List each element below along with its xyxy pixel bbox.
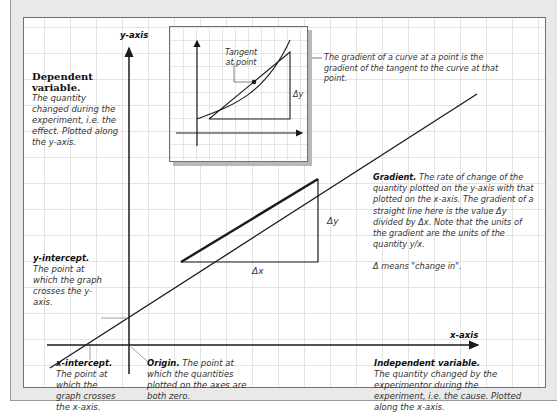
gradient-body: The rate of change of the quantity plott…	[373, 172, 533, 249]
independent-variable-body: The quantity changed by the experimentor…	[374, 369, 524, 413]
origin-note: Origin. The point at which the quantitie…	[147, 358, 247, 402]
tangent-point	[252, 80, 257, 85]
delta-y-label: Δy	[327, 216, 338, 226]
x-intercept-note: x-intercept. The point at which the grap…	[56, 358, 122, 413]
dependent-variable-body: The quantity changed during the experime…	[32, 93, 124, 148]
delta-x-label: Δx	[252, 266, 263, 276]
y-intercept-body: The point at which the graph crosses the…	[33, 264, 102, 307]
gradient-note: Gradient. The rate of change of the quan…	[373, 172, 535, 273]
delta-meaning-note: Δ means "change in".	[373, 261, 535, 272]
origin-title: Origin.	[147, 358, 180, 368]
inset-delta-y: Δy	[293, 90, 303, 99]
x-intercept-body: The point at which the graph crosses the…	[56, 369, 115, 412]
x-axis-label: x-axis	[450, 330, 478, 340]
tangent-label: Tangent at point	[219, 48, 263, 68]
inset-caption: The gradient of a curve at a point is th…	[324, 53, 514, 85]
y-intercept-title: y-intercept.	[33, 253, 89, 263]
x-intercept-title: x-intercept.	[56, 358, 112, 368]
tangent-label-line2: at point	[219, 58, 263, 68]
dependent-variable-note: Dependent variable. The quantity changed…	[32, 71, 124, 148]
gradient-title: Gradient.	[373, 172, 416, 182]
tangent-label-line1: Tangent	[219, 48, 263, 58]
independent-variable-title: Independent variable.	[374, 358, 524, 369]
y-intercept-note: y-intercept. The point at which the grap…	[33, 253, 103, 308]
y-axis-label: y-axis	[120, 30, 148, 40]
independent-variable-note: Independent variable. The quantity chang…	[374, 358, 524, 413]
dependent-variable-title: Dependent variable.	[32, 71, 124, 93]
